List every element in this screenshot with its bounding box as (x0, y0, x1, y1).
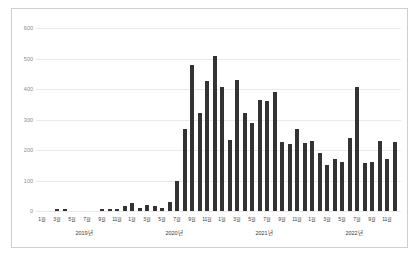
bar (348, 138, 352, 211)
x-axis-month-label: 7월 (260, 217, 275, 222)
bar (288, 144, 292, 211)
bar (310, 141, 314, 211)
y-axis-tick-label: 300 (21, 117, 33, 123)
x-axis-month-label: 1월 (35, 217, 50, 222)
bar (160, 208, 164, 211)
bar (378, 141, 382, 211)
y-axis-tick-label: 500 (21, 56, 33, 62)
x-axis-month-label: 5월 (155, 217, 170, 222)
bar (370, 162, 374, 211)
bar (168, 202, 172, 211)
y-axis-tick-label: 400 (21, 86, 33, 92)
bar (175, 181, 179, 212)
x-axis-month-label: 9월 (95, 217, 110, 222)
bar (250, 123, 254, 211)
bar (393, 142, 397, 211)
bar (153, 206, 157, 211)
bar (123, 206, 127, 211)
x-axis-month-label: 7월 (80, 217, 95, 222)
x-axis-month-label: 3월 (320, 217, 335, 222)
x-axis-month-label: 1월 (215, 217, 230, 222)
x-axis-month-label: 9월 (275, 217, 290, 222)
x-axis-month-label: 11월 (290, 217, 305, 222)
bar (235, 80, 239, 211)
bar (273, 92, 277, 211)
x-axis-month-label: 11월 (380, 217, 395, 222)
x-axis-month-label: 1월 (305, 217, 320, 222)
bar (333, 159, 337, 211)
bar (63, 209, 67, 211)
x-axis-month-label: 3월 (140, 217, 155, 222)
bar (228, 140, 232, 211)
bar (303, 143, 307, 211)
x-axis-year-label: 2021년 (247, 230, 280, 236)
x-axis-month-label: 11월 (110, 217, 125, 222)
x-axis-year-label: 2019년 (67, 230, 100, 236)
bar (55, 209, 59, 211)
bar (145, 205, 149, 211)
bar (280, 142, 284, 211)
x-axis-year-label: 2022년 (337, 230, 370, 236)
bar (198, 113, 202, 211)
bar (385, 159, 389, 211)
bar (318, 153, 322, 211)
bar (325, 165, 329, 211)
bar (243, 113, 247, 211)
x-axis-month-label: 1월 (125, 217, 140, 222)
x-axis-month-label: 3월 (230, 217, 245, 222)
x-axis-month-label: 11월 (200, 217, 215, 222)
y-axis-tick-label: 0 (21, 208, 33, 214)
bar (295, 129, 299, 211)
x-axis-month-label: 7월 (350, 217, 365, 222)
x-axis-month-label: 5월 (335, 217, 350, 222)
y-axis-tick-label: 200 (21, 147, 33, 153)
gridline (36, 28, 401, 29)
bar (100, 209, 104, 211)
bar (205, 81, 209, 211)
x-axis-month-label: 9월 (185, 217, 200, 222)
bar (363, 163, 367, 211)
bar (138, 208, 142, 211)
x-axis-month-label: 3월 (50, 217, 65, 222)
gridline (36, 150, 401, 151)
bar (213, 56, 217, 211)
x-axis-month-label: 9월 (365, 217, 380, 222)
bar (220, 87, 224, 211)
bar (258, 100, 262, 211)
gridline (36, 89, 401, 90)
bar (130, 203, 134, 211)
bar (340, 162, 344, 211)
x-axis-month-label: 5월 (65, 217, 80, 222)
bar (265, 101, 269, 211)
gridline (36, 211, 401, 212)
x-axis-month-label: 5월 (245, 217, 260, 222)
bar (183, 129, 187, 211)
y-axis-tick-label: 100 (21, 178, 33, 184)
chart-panel: 01002003004005006001월3월5월7월9월11월2019년1월3… (11, 8, 408, 248)
bar (108, 209, 112, 211)
gridline (36, 59, 401, 60)
x-axis-month-label: 7월 (170, 217, 185, 222)
bar (115, 209, 119, 211)
gridline (36, 120, 401, 121)
bar (190, 65, 194, 211)
gridline (36, 181, 401, 182)
bar (355, 87, 359, 211)
x-axis-year-label: 2020년 (157, 230, 190, 236)
y-axis-tick-label: 600 (21, 25, 33, 31)
